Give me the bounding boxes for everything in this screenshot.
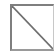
image-placeholder[interactable]: Image placeholder <box>10 4 54 51</box>
broken-image-icon <box>12 6 53 49</box>
